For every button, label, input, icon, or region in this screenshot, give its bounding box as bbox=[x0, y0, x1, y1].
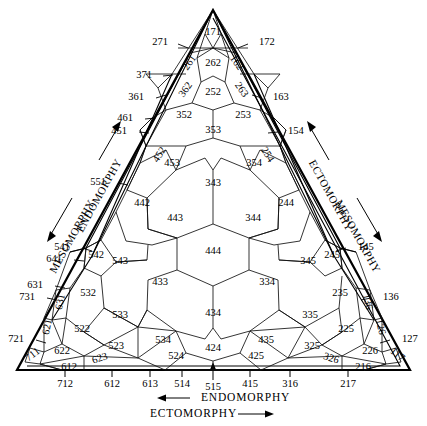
somatotype-cell-label: 334 bbox=[259, 276, 276, 287]
somatotype-cell-label: 523 bbox=[108, 340, 124, 351]
somatotype-cell-label: 225 bbox=[338, 323, 354, 334]
left-edge-label: 461 bbox=[117, 112, 133, 123]
somatotype-cell-label: 352 bbox=[176, 109, 192, 120]
somatotype-cell-label: 534 bbox=[155, 334, 172, 345]
right-edge-label: 172 bbox=[259, 36, 275, 47]
bottom-axis-label: 712 bbox=[57, 378, 73, 389]
somatotype-cell-label: 126 bbox=[374, 318, 388, 336]
somatotype-cell-label: 162 bbox=[228, 53, 246, 72]
somatotype-cell-label: 424 bbox=[205, 342, 222, 353]
right-edge-label: 136 bbox=[383, 291, 399, 302]
bottom-axis-label: 217 bbox=[340, 378, 356, 389]
somatotype-cell-label: 621 bbox=[40, 318, 54, 336]
axis-title-bottom-endomorphy: ENDOMORPHY bbox=[201, 391, 290, 403]
somatotype-cell-label: 443 bbox=[167, 212, 183, 223]
somatotype-cell-label: 612 bbox=[61, 361, 77, 372]
right-edge-label: 154 bbox=[288, 125, 305, 136]
bottom-axis-label: 415 bbox=[242, 378, 258, 389]
interior-cell-labels: 1712622611622523622633522533534522544533… bbox=[23, 26, 407, 372]
somatotype-cell-label: 542 bbox=[88, 249, 104, 260]
somatotype-cell-label: 335 bbox=[302, 309, 318, 320]
somatotype-cell-label: 435 bbox=[258, 334, 274, 345]
somatotype-cell-label: 171 bbox=[205, 26, 221, 37]
bottom-axis-label: 613 bbox=[142, 378, 158, 389]
somatotype-cell-label: 444 bbox=[205, 245, 222, 256]
somatotype-cell-label: 345 bbox=[300, 255, 316, 266]
somatochart-container: 1712622611622523622633522533534522544533… bbox=[0, 0, 427, 426]
somatotype-cell-label: 425 bbox=[248, 350, 264, 361]
somatotype-cell-label: 261 bbox=[180, 53, 198, 72]
bottom-axis-label: 612 bbox=[104, 378, 120, 389]
somatotype-cell-label: 543 bbox=[112, 255, 128, 266]
axis-title-left-inner: ENDOMORPHY bbox=[74, 157, 124, 234]
somatotype-cell-label: 326 bbox=[322, 350, 340, 365]
left-edge-label: 271 bbox=[152, 36, 168, 47]
axis-arrows bbox=[47, 121, 382, 418]
somatotype-cell-label: 623 bbox=[90, 350, 108, 365]
somatotype-cell-label: 216 bbox=[355, 361, 371, 372]
somatotype-cell-label: 631 bbox=[53, 293, 67, 311]
somatotype-cell-label: 343 bbox=[205, 177, 221, 188]
right-edge-label: 163 bbox=[273, 91, 289, 102]
somatotype-cell-label: 235 bbox=[332, 287, 348, 298]
right-edge-label: 127 bbox=[402, 333, 418, 344]
somatotype-cell-label: 325 bbox=[304, 340, 320, 351]
somatotype-cell-label: 136 bbox=[361, 293, 375, 311]
left-edge-label: 631 bbox=[27, 279, 43, 290]
left-edge-label: 361 bbox=[128, 91, 144, 102]
somatotype-cell-label: 622 bbox=[54, 345, 70, 356]
somatotype-cell-label: 532 bbox=[80, 287, 96, 298]
left-edge-label: 721 bbox=[8, 333, 24, 344]
bottom-axis-label: 316 bbox=[282, 378, 298, 389]
somatotype-cell-label: 533 bbox=[112, 309, 128, 320]
somatotype-cell-label: 344 bbox=[245, 212, 262, 223]
left-edge-label: 731 bbox=[19, 291, 35, 302]
somatotype-cell-label: 253 bbox=[235, 109, 251, 120]
somatotype-cell-label: 252 bbox=[205, 86, 221, 97]
somatochart-svg: 1712622611622523622633522533534522544533… bbox=[0, 0, 427, 426]
somatotype-cell-label: 226 bbox=[362, 345, 378, 356]
somatotype-cell-label: 522 bbox=[74, 323, 90, 334]
left-edge-label: 451 bbox=[111, 125, 127, 136]
somatotype-cell-label: 262 bbox=[205, 57, 221, 68]
somatotype-cell-label: 245 bbox=[324, 249, 340, 260]
somatotype-cell-label: 354 bbox=[246, 157, 263, 168]
bottom-axis-label: 514 bbox=[174, 378, 191, 389]
somatotype-cell-label: 453 bbox=[164, 157, 180, 168]
somatotype-cell-label: 433 bbox=[152, 276, 168, 287]
somatotype-cell-label: 362 bbox=[176, 80, 194, 99]
somatotype-cell-label: 442 bbox=[134, 197, 150, 208]
somatotype-cell-label: 524 bbox=[168, 350, 185, 361]
axis-title-bottom-ectomorphy: ECTOMORPHY bbox=[150, 407, 237, 419]
somatotype-cell-label: 244 bbox=[278, 197, 295, 208]
somatotype-cell-label: 353 bbox=[205, 124, 221, 135]
left-edge-label: 371 bbox=[136, 69, 152, 80]
somatotype-cell-label: 434 bbox=[205, 307, 222, 318]
